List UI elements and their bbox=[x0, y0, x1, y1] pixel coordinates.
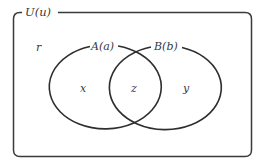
region-outside-label: r bbox=[36, 41, 42, 54]
region-intersection-label: z bbox=[130, 82, 137, 95]
universe-label: U(u) bbox=[25, 5, 51, 19]
venn-diagram: U(u) A(a) B(b) r x z y bbox=[0, 0, 265, 162]
set-a-circle bbox=[49, 46, 161, 129]
set-a-label: A(a) bbox=[90, 40, 114, 53]
set-b-circle bbox=[109, 47, 221, 130]
region-only-a-label: x bbox=[80, 82, 87, 95]
set-b-label: B(b) bbox=[153, 40, 178, 53]
region-only-b-label: y bbox=[182, 82, 190, 95]
